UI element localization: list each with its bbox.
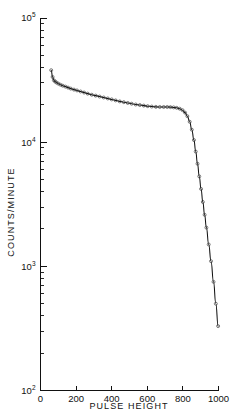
x-tick-label: 0 xyxy=(38,393,43,404)
chart-canvas: 102103104105 02004006008001000 PULSE HEI… xyxy=(0,0,241,416)
x-axis-title: PULSE HEIGHT xyxy=(89,401,168,411)
y-axis-tick-labels: 102103104105 xyxy=(21,11,36,396)
x-tick-label: 200 xyxy=(68,393,84,404)
x-tick-label: 1000 xyxy=(208,393,229,404)
y-tick-label: 103 xyxy=(21,260,36,272)
x-axis-ticks xyxy=(41,386,219,391)
y-tick-label: 104 xyxy=(21,136,36,148)
y-axis-title: COUNTS/MINUTE xyxy=(6,167,16,256)
data-curve xyxy=(51,70,218,326)
figure-container: 102103104105 02004006008001000 PULSE HEI… xyxy=(0,0,241,416)
data-markers xyxy=(50,69,220,328)
axis-lines xyxy=(41,18,219,391)
y-tick-label: 102 xyxy=(21,384,36,396)
y-tick-label: 105 xyxy=(21,11,36,23)
y-axis-ticks xyxy=(41,18,47,391)
x-tick-label: 800 xyxy=(175,393,191,404)
